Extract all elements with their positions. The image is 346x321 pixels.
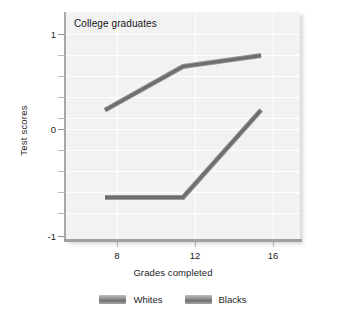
series-line-whites-highlight [105, 56, 261, 111]
series-line-blacks [105, 110, 261, 197]
legend-item-whites: Whites [99, 294, 162, 305]
legend-label-blacks: Blacks [219, 294, 247, 305]
y-tick-label-1: 1 [34, 30, 56, 40]
y-axis-title: Test scores [18, 86, 29, 176]
x-tick-mark [273, 242, 274, 247]
series-line-blacks-highlight [105, 110, 261, 197]
plot-area: College graduates [66, 12, 300, 241]
x-axis-title: Grades completed [0, 267, 346, 278]
x-tick-label-16: 16 [253, 250, 293, 261]
legend-swatch-blacks [185, 295, 212, 304]
x-tick-mark [195, 242, 196, 247]
x-tick-mark [117, 242, 118, 247]
chart-title: College graduates [74, 18, 157, 29]
legend-swatch-whites [99, 295, 126, 304]
legend-item-blacks: Blacks [185, 294, 247, 305]
y-tick-label-0: 0 [34, 125, 56, 135]
data-lines [66, 12, 300, 241]
x-axis-spine [64, 239, 302, 242]
series-line-whites [105, 56, 261, 111]
x-tick-label-8: 8 [97, 250, 137, 261]
y-tick-label-minus1: -1 [34, 232, 56, 242]
legend-label-whites: Whites [133, 294, 162, 305]
chart-figure: Test scores 1 0 -1 [0, 0, 346, 321]
x-tick-label-12: 12 [175, 250, 215, 261]
chart-legend: Whites Blacks [0, 294, 346, 305]
